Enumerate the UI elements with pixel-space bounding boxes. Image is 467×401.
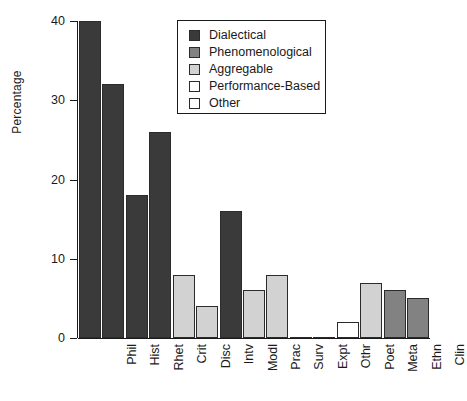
x-axis-tick-label: Phil: [125, 344, 139, 400]
y-axis-tick-mark: [70, 100, 77, 101]
x-axis-tick-label: Rhet: [172, 344, 186, 400]
bar: [126, 195, 148, 338]
y-axis-tick-mark: [70, 21, 77, 22]
bar: [337, 322, 359, 338]
legend-item: Aggregable: [178, 61, 325, 78]
y-axis-tick: 40: [0, 21, 77, 22]
legend-item: Performance-Based: [178, 78, 325, 95]
y-axis-tick: 20: [0, 180, 77, 181]
x-axis-tick-label: Crit: [195, 344, 209, 400]
x-axis-tick-label: Intv: [242, 344, 256, 400]
legend-swatch-icon: [189, 98, 200, 109]
y-axis-tick-mark: [70, 338, 77, 339]
y-axis-tick-label: 30: [17, 94, 65, 107]
x-axis-line: [78, 338, 430, 339]
legend-item: Dialectical: [178, 27, 325, 44]
chart-legend: DialecticalPhenomenologicalAggregablePer…: [177, 20, 326, 114]
x-axis-tick-label: Hist: [148, 344, 162, 400]
bar: [79, 21, 101, 338]
bar: [173, 275, 195, 338]
legend-item: Phenomenological: [178, 44, 325, 61]
legend-swatch-icon: [189, 30, 200, 41]
legend-swatch-icon: [189, 47, 200, 58]
bar: [102, 84, 124, 338]
y-axis-tick-label: 0: [17, 332, 65, 345]
x-axis-tick-label: Ethn: [430, 344, 444, 400]
legend-item-label: Performance-Based: [209, 80, 320, 93]
bar: [266, 275, 288, 338]
x-axis-tick-label: Expt: [336, 344, 350, 400]
legend-item: Other: [178, 95, 325, 112]
y-axis-tick-mark: [70, 259, 77, 260]
bar: [290, 337, 312, 338]
y-axis-tick: 30: [0, 100, 77, 101]
y-axis-tick-label: 20: [17, 174, 65, 187]
bar: [384, 290, 406, 338]
x-axis-tick-label: Poet: [383, 344, 397, 400]
legend-item-label: Phenomenological: [209, 46, 312, 59]
x-axis-tick-label: Disc: [219, 344, 233, 400]
y-axis-tick: 0: [0, 338, 77, 339]
bar: [149, 132, 171, 338]
x-axis-tick-label: Clin: [453, 344, 467, 400]
y-axis-tick-label: 40: [17, 15, 65, 28]
x-axis-tick-label: Prac: [289, 344, 303, 400]
legend-item-label: Other: [209, 97, 240, 110]
x-axis-tick-label: Surv: [312, 344, 326, 400]
bar: [220, 211, 242, 338]
legend-item-label: Dialectical: [209, 29, 266, 42]
bar: [196, 306, 218, 338]
bar: [243, 290, 265, 338]
y-axis-tick-mark: [70, 180, 77, 181]
bar: [313, 337, 335, 338]
legend-swatch-icon: [189, 64, 200, 75]
bar: [407, 298, 429, 338]
legend-swatch-icon: [189, 81, 200, 92]
legend-item-label: Aggregable: [209, 63, 273, 76]
y-axis-tick: 10: [0, 259, 77, 260]
x-axis-tick-label: Meta: [406, 344, 420, 400]
y-axis-tick-label: 10: [17, 253, 65, 266]
x-axis-tick-label: Modl: [266, 344, 280, 400]
bar: [360, 283, 382, 338]
x-axis-tick-label: Othr: [359, 344, 373, 400]
